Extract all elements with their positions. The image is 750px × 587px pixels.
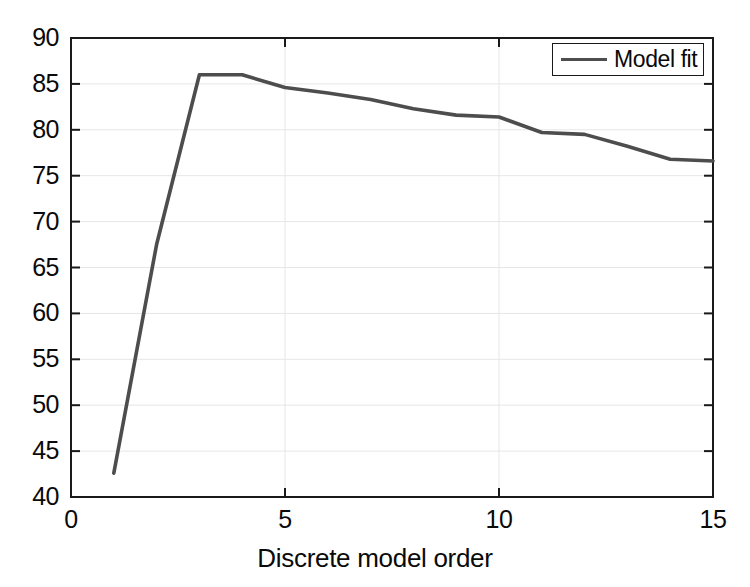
x-axis-label: Discrete model order — [0, 543, 750, 573]
y-tick-label: 75 — [32, 163, 59, 188]
y-tick-label: 60 — [32, 300, 59, 325]
figure-canvas: 4045505560657075808590 051015 Discrete m… — [0, 0, 750, 587]
x-tick-label: 10 — [459, 507, 539, 532]
y-tick-label: 80 — [32, 117, 59, 142]
y-tick-label: 70 — [32, 209, 59, 234]
data-line-model-fit — [114, 75, 713, 473]
x-tick-label: 0 — [31, 507, 111, 532]
legend-line-swatch-model-fit — [561, 58, 607, 61]
y-tick-label: 85 — [32, 71, 59, 96]
y-tick-label: 65 — [32, 255, 59, 280]
plot-area — [0, 0, 750, 587]
y-tick-label: 50 — [32, 392, 59, 417]
legend-label-model-fit: Model fit — [614, 48, 697, 71]
y-tick-label: 40 — [32, 484, 59, 509]
y-tick-label: 90 — [32, 25, 59, 50]
y-tick-label: 55 — [32, 346, 59, 371]
y-tick-label: 45 — [32, 438, 59, 463]
legend: Model fit — [552, 43, 704, 76]
x-tick-label: 5 — [245, 507, 325, 532]
gridlines-group — [71, 38, 713, 497]
x-tick-label: 15 — [673, 507, 750, 532]
